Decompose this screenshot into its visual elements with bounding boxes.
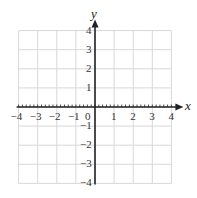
coordinate-plane <box>0 0 197 198</box>
y-tick-label: 2 <box>86 63 92 74</box>
y-tick-label: −1 <box>80 120 92 131</box>
x-axis-arrow-icon <box>175 104 183 111</box>
x-tick-label: −3 <box>30 111 42 122</box>
y-axis-label: y <box>91 7 97 20</box>
x-tick-label: −4 <box>11 111 23 122</box>
x-tick-label: 1 <box>111 111 117 122</box>
x-tick-label: −1 <box>68 111 80 122</box>
x-axis-label: x <box>185 99 191 112</box>
x-tick-label: 4 <box>168 111 174 122</box>
y-tick-label: 3 <box>86 44 92 55</box>
y-tick-label: −3 <box>80 158 92 169</box>
x-tick-label: 3 <box>149 111 155 122</box>
y-tick-label: −2 <box>80 139 92 150</box>
x-tick-label: −2 <box>49 111 61 122</box>
y-tick-label: 1 <box>86 82 92 93</box>
y-tick-label: −4 <box>80 177 92 188</box>
x-tick-label: 2 <box>130 111 136 122</box>
y-tick-label: 4 <box>86 25 92 36</box>
